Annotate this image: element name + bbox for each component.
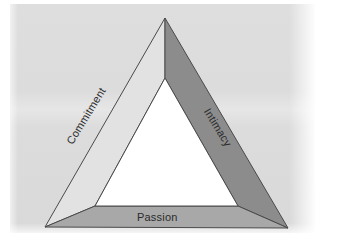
passion-label: Passion xyxy=(137,211,178,223)
triangle-diagram xyxy=(0,0,339,242)
figure-page: Commitment Intimacy Passion xyxy=(0,0,339,242)
